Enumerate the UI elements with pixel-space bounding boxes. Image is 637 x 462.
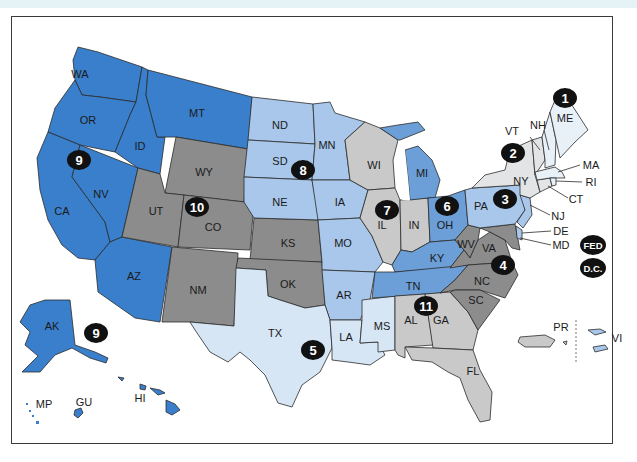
circuit-badge-4[interactable]: 4 <box>491 255 515 275</box>
badge-number: 8 <box>299 163 306 178</box>
state-label-ak: AK <box>45 320 60 332</box>
state-label-az: AZ <box>127 270 141 282</box>
state-label-wi: WI <box>367 159 380 171</box>
circuit-badge-9[interactable]: 9 <box>67 150 91 170</box>
state-label-fl: FL <box>467 365 480 377</box>
state-label-mt: MT <box>189 107 205 119</box>
state-label-mn: MN <box>318 139 335 151</box>
badge-number: D.C. <box>584 263 603 274</box>
state-label-va: VA <box>482 242 497 254</box>
badge-number: 4 <box>499 258 507 273</box>
badge-number: 2 <box>509 146 516 161</box>
state-shapes <box>20 47 608 424</box>
state-label-nc: NC <box>474 275 490 287</box>
callout-label-ma: MA <box>583 159 600 171</box>
circuit-badge-6[interactable]: 6 <box>435 196 459 216</box>
state-label-ga: GA <box>433 314 450 326</box>
badge-number: 1 <box>561 91 568 106</box>
state-fl[interactable] <box>405 347 492 422</box>
state-label-ms: MS <box>374 320 391 332</box>
territory-gu[interactable] <box>74 408 83 418</box>
state-label-wy: WY <box>195 166 213 178</box>
state-label-ut: UT <box>149 205 164 217</box>
state-label-wa: WA <box>71 68 89 80</box>
state-label-vt: VT <box>505 125 519 137</box>
state-label-mi: MI <box>416 167 428 179</box>
state-label-wv: WV <box>457 238 475 250</box>
state-label-ca: CA <box>54 205 70 217</box>
circuit-badge-7[interactable]: 7 <box>375 200 399 220</box>
badge-number: 5 <box>309 343 316 358</box>
state-ct[interactable] <box>537 178 552 192</box>
state-label-vi: VI <box>612 332 622 344</box>
state-label-nd: ND <box>272 119 288 131</box>
state-label-tx: TX <box>268 327 283 339</box>
circuit-badge-dc[interactable]: D.C. <box>580 258 606 278</box>
circuit-badge-3[interactable]: 3 <box>493 189 517 209</box>
state-label-nh: NH <box>530 119 546 131</box>
state-label-co: CO <box>205 221 222 233</box>
state-label-tn: TN <box>406 280 421 292</box>
state-hi[interactable] <box>118 377 180 415</box>
circuit-map: WAORCANVIDMTAZWYUTCONMKSOKNDSDNEMNIAMOAR… <box>0 0 637 462</box>
state-label-mo: MO <box>334 237 352 249</box>
badge-number: 7 <box>383 203 390 218</box>
state-label-or: OR <box>80 114 97 126</box>
state-label-il: IL <box>377 219 386 231</box>
state-label-ia: IA <box>335 196 346 208</box>
state-label-id: ID <box>135 140 146 152</box>
callout-label-de: DE <box>553 225 568 237</box>
callout-label-md: MD <box>552 239 569 251</box>
circuit-badge-5[interactable]: 5 <box>301 340 325 360</box>
circuit-badge-11[interactable]: 11 <box>414 296 438 316</box>
state-label-ks: KS <box>281 237 296 249</box>
state-label-oh: OH <box>437 219 454 231</box>
state-label-sd: SD <box>272 155 287 167</box>
circuit-badge-9[interactable]: 9 <box>84 323 108 343</box>
circuit-badge-10[interactable]: 10 <box>185 197 209 217</box>
state-label-ok: OK <box>280 278 297 290</box>
badge-number: 9 <box>75 153 82 168</box>
callout-label-nj: NJ <box>551 210 564 222</box>
territory-vi[interactable] <box>588 329 608 352</box>
state-label-in: IN <box>409 219 420 231</box>
state-label-sc: SC <box>468 294 483 306</box>
badge-number: 6 <box>443 199 450 214</box>
state-label-gu: GU <box>76 396 93 408</box>
circuit-badge-1[interactable]: 1 <box>553 88 577 108</box>
state-label-nm: NM <box>189 284 206 296</box>
state-label-nv: NV <box>93 188 109 200</box>
state-label-me: ME <box>557 112 574 124</box>
badge-number: 3 <box>501 192 508 207</box>
callout-label-ct: CT <box>569 193 584 205</box>
territory-pr[interactable] <box>518 335 567 347</box>
circuit-badge-2[interactable]: 2 <box>501 143 525 163</box>
state-label-pa: PA <box>474 200 489 212</box>
badge-number: 9 <box>92 326 99 341</box>
state-label-la: LA <box>339 331 353 343</box>
circuit-badge-fed[interactable]: FED <box>580 235 606 255</box>
state-label-pr: PR <box>553 321 568 333</box>
badge-number: 10 <box>190 200 204 215</box>
state-label-ny: NY <box>513 175 529 187</box>
callout-label-ri: RI <box>586 176 597 188</box>
state-label-ne: NE <box>272 196 287 208</box>
state-label-al: AL <box>404 314 417 326</box>
state-label-ky: KY <box>430 252 445 264</box>
circuit-badge-8[interactable]: 8 <box>291 160 315 180</box>
state-label-mp: MP <box>36 398 53 410</box>
state-label-hi: HI <box>135 392 146 404</box>
state-label-ar: AR <box>336 289 351 301</box>
badge-number: FED <box>584 240 603 251</box>
badge-number: 11 <box>419 299 433 314</box>
